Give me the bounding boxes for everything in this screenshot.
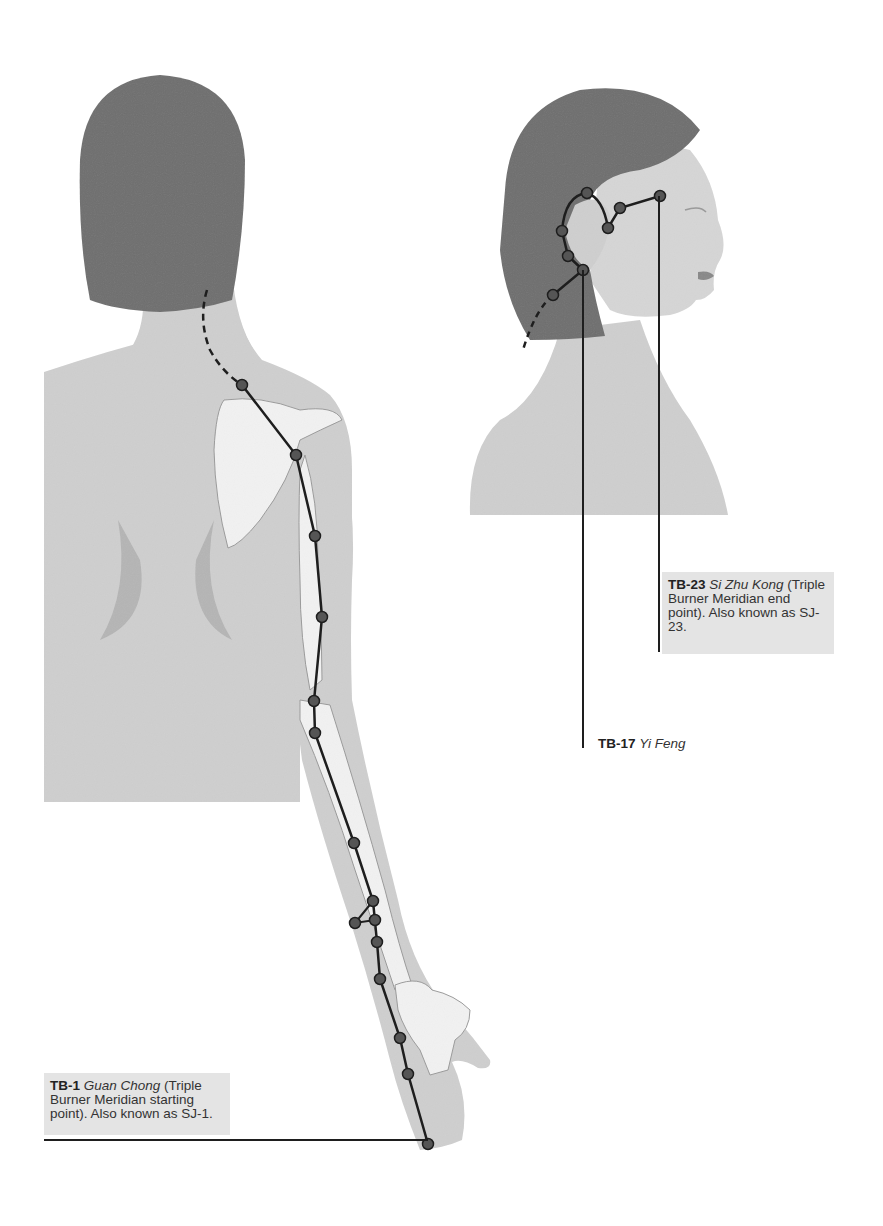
side-shoulders	[470, 320, 728, 515]
back-arm	[295, 452, 490, 1150]
tb1-name: Guan Chong	[84, 1078, 161, 1093]
back-hair	[80, 75, 245, 312]
tb17-code: TB-17	[598, 736, 639, 751]
tb1-label: TB-1 Guan Chong (Triple Burner Meridian …	[44, 1073, 230, 1135]
head-view-figure	[470, 88, 728, 515]
tb17-label: TB-17 Yi Feng	[598, 737, 686, 751]
tb17-name: Yi Feng	[639, 736, 685, 751]
tb23-code: TB-23	[668, 577, 709, 592]
tb23-name: Si Zhu Kong	[709, 577, 783, 592]
back-view-figure	[44, 75, 490, 1150]
tb1-code: TB-1	[50, 1078, 84, 1093]
tb23-label: TB-23 Si Zhu Kong (Triple Burner Meridia…	[662, 572, 834, 654]
